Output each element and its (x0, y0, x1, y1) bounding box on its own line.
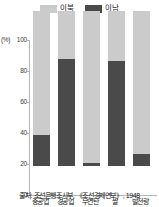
bar-column-0 (33, 11, 50, 166)
source-citation: 출처: 조선은행조사부, 《조선경제연보》, 1948 (0, 191, 159, 200)
y-tick-label-80: 80 (0, 67, 29, 75)
bar-stack-1 (58, 11, 75, 166)
bar-column-4 (133, 11, 150, 166)
bar-column-1 (58, 11, 75, 166)
bars-layer: 중공업 경공업 무연탄 쌀 발전량 (29, 18, 157, 196)
bar-segment-north-1 (58, 11, 75, 59)
bar-segment-north-0 (33, 11, 50, 135)
bar-segment-south-4 (133, 154, 150, 166)
bar-stack-0 (33, 11, 50, 166)
bar-segment-south-1 (58, 59, 75, 166)
bar-segment-north-4 (133, 11, 150, 154)
y-tick-label-40: 40 (0, 129, 29, 137)
y-tick-label-60: 60 (0, 98, 29, 106)
bar-stack-4 (133, 11, 150, 166)
plot-area: (%) 100 80 60 40 20 0 (0, 18, 159, 190)
bar-stack-2 (83, 11, 100, 166)
bar-segment-north-2 (83, 11, 100, 163)
bar-column-2 (83, 11, 100, 166)
y-tick-label-20: 20 (0, 160, 29, 168)
stacked-bar-chart: 이북 이남 (%) 100 80 60 40 20 0 (0, 0, 159, 207)
bar-stack-3 (108, 11, 125, 166)
bar-segment-south-0 (33, 135, 50, 166)
bar-segment-south-3 (108, 61, 125, 166)
bar-segment-south-2 (83, 163, 100, 166)
y-tick-label-100: 100 (0, 36, 29, 44)
bar-column-3 (108, 11, 125, 166)
bar-segment-north-3 (108, 11, 125, 61)
